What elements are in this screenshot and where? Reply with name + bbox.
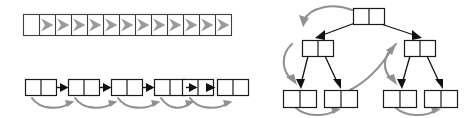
list-item xyxy=(112,80,143,96)
traversal-curve-arrow-icon xyxy=(284,44,297,85)
tree-edge-left-leaf1 xyxy=(296,56,308,89)
traversal-curve-arrow-icon xyxy=(299,6,352,27)
tree-node-right xyxy=(405,41,436,57)
binary-tree-traversal xyxy=(284,6,458,115)
tree-node-left xyxy=(303,41,334,57)
traversal-curve-arrow-icon xyxy=(296,107,341,115)
next-pointer-arrow-icon xyxy=(143,83,155,92)
next-pointer-arrow-icon xyxy=(57,83,69,92)
traversal-curve-arrow-icon xyxy=(75,98,118,108)
list-item xyxy=(26,80,57,96)
tree-node-leaf3 xyxy=(384,91,417,108)
tree-node-leaf2 xyxy=(325,91,358,108)
array-sequential-traversal xyxy=(24,15,232,36)
tree-edge-right-leaf3 xyxy=(397,56,410,89)
list-item xyxy=(69,80,100,96)
next-pointer-arrow-icon xyxy=(100,83,112,92)
list-item xyxy=(155,80,186,96)
linked-list-traversal xyxy=(26,80,249,108)
traversal-curve-arrow-icon xyxy=(161,98,195,108)
traversal-curve-arrow-icon xyxy=(190,98,233,108)
tree-edge-right-leaf4 xyxy=(427,56,443,89)
list-traversal-curves xyxy=(32,98,233,108)
tree-edge-root-left xyxy=(315,23,355,40)
figure-canvas xyxy=(0,0,473,118)
tree-edge-root-right xyxy=(378,23,422,40)
tree-node-root xyxy=(354,9,385,25)
traversal-curve-arrow-icon xyxy=(118,98,161,108)
figure-root xyxy=(0,0,473,118)
tree-node-leaf4 xyxy=(425,91,458,108)
traversal-curve-arrow-icon xyxy=(396,107,441,115)
traversal-curve-arrow-icon xyxy=(32,98,75,108)
list-item xyxy=(218,80,249,96)
tree-edge-left-leaf2 xyxy=(325,56,341,89)
tree-node-leaf1 xyxy=(284,91,317,108)
tree-nodes xyxy=(284,9,458,108)
